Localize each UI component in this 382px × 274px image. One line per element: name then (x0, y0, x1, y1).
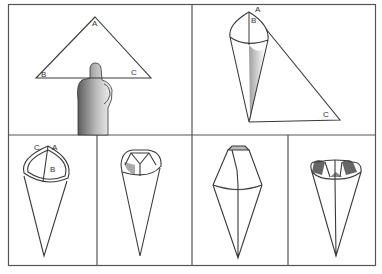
panel-step-5 (213, 146, 262, 258)
cone-body (24, 176, 67, 256)
cone-body (312, 172, 361, 256)
vertex-label-c: C (131, 68, 137, 77)
vertex-label-c: C (34, 143, 40, 152)
panel-step-2: A B C (230, 5, 340, 122)
panel-step-4 (121, 150, 161, 256)
vertex-label-a: A (255, 5, 261, 14)
panel-frame (8, 4, 376, 266)
vertex-label-c: C (323, 110, 329, 119)
vertex-label-a: A (52, 143, 58, 152)
vertex-label-a: A (92, 19, 98, 28)
vertex-label-b: B (50, 165, 55, 174)
panel-step-6 (311, 160, 361, 256)
vertex-label-b: B (41, 70, 46, 79)
panel-step-1: A B C (36, 17, 151, 135)
paper-flap (249, 29, 340, 122)
hand-illustration (78, 63, 113, 135)
panel-step-3: C A B (24, 143, 70, 256)
cone-body (213, 185, 262, 258)
cone-body (122, 168, 160, 256)
folding-diagram: A B C A B C C A B (0, 0, 382, 274)
top-cap (228, 146, 249, 150)
vertex-label-b: B (251, 16, 256, 25)
